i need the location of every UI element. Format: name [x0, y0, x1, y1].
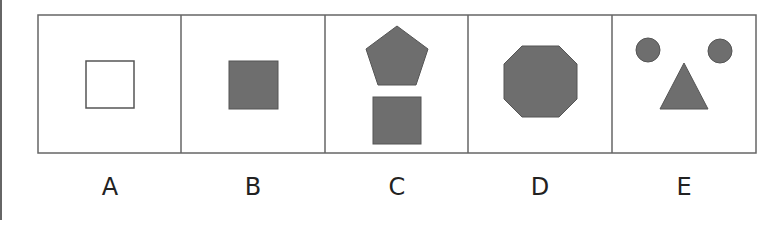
- option-a-shapes: [86, 61, 134, 108]
- filled-circle-icon: [708, 39, 732, 63]
- option-label-e: E: [654, 172, 714, 202]
- option-label-b: B: [223, 172, 283, 202]
- filled-circle-icon: [636, 38, 660, 62]
- filled-square-icon: [229, 61, 278, 109]
- filled-square-icon: [373, 97, 421, 144]
- hollow-square-icon: [86, 61, 134, 108]
- filled-triangle-icon: [660, 63, 708, 109]
- filled-pentagon-icon: [366, 26, 428, 85]
- option-label-a: A: [80, 172, 140, 202]
- option-label-c: C: [367, 172, 427, 202]
- option-label-d: D: [510, 172, 570, 202]
- filled-octagon-icon: [504, 46, 577, 117]
